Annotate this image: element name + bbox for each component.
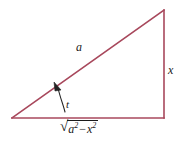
opposite-side-label: x [168,64,173,76]
hypotenuse-label: a [76,41,82,53]
base-side-label: √ a2−x2 [60,120,98,137]
angle-label: t [66,99,69,110]
angle-pointer-curve [58,88,65,112]
radicand-operator: − [78,122,87,136]
radicand-expression: a2−x2 [67,120,98,137]
angle-pointer-annotation [54,82,65,112]
triangle-figure: a x t √ a2−x2 [0,0,176,141]
triangle-hypotenuse-line [12,10,164,118]
triangle-outline [12,10,164,118]
radicand-x-exponent: 2 [92,121,96,130]
